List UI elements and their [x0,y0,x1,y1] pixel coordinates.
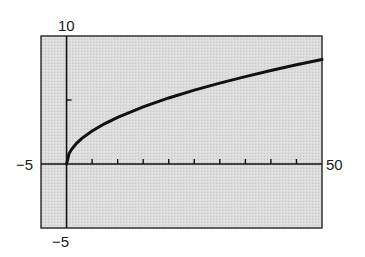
x-max-label: 50 [326,157,343,172]
y-max-label: 10 [58,18,75,33]
y-min-label: −5 [52,234,69,249]
chart-canvas [0,0,365,257]
x-min-label: −5 [16,157,33,172]
plot-area [41,36,322,228]
